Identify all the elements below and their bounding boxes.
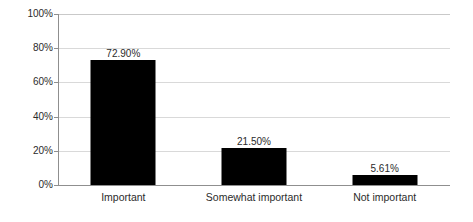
bar-somewhat-important[interactable]	[221, 148, 286, 185]
bar-value-label: 21.50%	[237, 136, 271, 147]
bar-important[interactable]	[91, 60, 156, 185]
category-label-not-important: Not important	[319, 191, 450, 204]
y-axis-tick-marks	[0, 14, 58, 185]
bar-chart: 100% 80% 60% 40% 20% 0% 72.90% 21.50%	[0, 0, 473, 222]
axis-baseline	[58, 185, 450, 186]
bar-value-label: 72.90%	[106, 48, 140, 59]
category-label-important: Important	[58, 191, 189, 204]
bar-value-label: 5.61%	[370, 163, 398, 174]
x-axis-category-labels: Important Somewhat important Not importa…	[58, 191, 450, 211]
bar-not-important[interactable]	[352, 175, 417, 185]
bars-layer: 72.90% 21.50% 5.61%	[58, 14, 450, 185]
bar-slot: 72.90%	[58, 14, 189, 185]
category-label-somewhat-important: Somewhat important	[189, 191, 320, 204]
bar-slot: 5.61%	[319, 14, 450, 185]
bar-slot: 21.50%	[189, 14, 320, 185]
